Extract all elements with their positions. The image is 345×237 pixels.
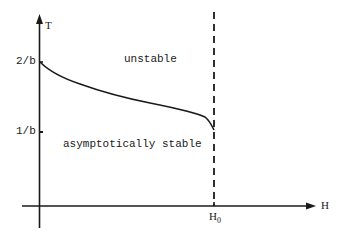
h-axis-arrow-icon — [306, 203, 316, 210]
t-axis-arrow-icon — [36, 14, 43, 24]
t-axis-label: T — [45, 20, 52, 31]
diagram-graphics — [0, 0, 345, 237]
tick-label-1-over-b: 1/b — [16, 126, 36, 137]
stability-boundary-curve — [40, 62, 214, 130]
region-label-unstable: unstable — [124, 54, 177, 65]
h-axis-label: H — [321, 200, 329, 211]
h0-label: H0 — [209, 211, 221, 222]
region-label-asymptotically-stable: asymptotically stable — [63, 139, 202, 150]
stability-diagram: T 2/b 1/b unstable asymptotically stable… — [0, 0, 345, 237]
tick-label-2-over-b: 2/b — [16, 56, 36, 67]
